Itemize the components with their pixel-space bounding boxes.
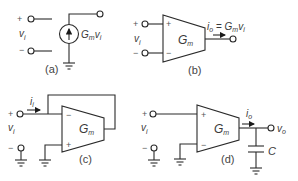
ota-gain-label: Gm: [178, 33, 193, 47]
capacitor-label: C: [268, 145, 276, 157]
minus-sign: −: [133, 48, 138, 58]
output-current-label: io: [246, 108, 252, 120]
ota-minus-input: −: [166, 48, 171, 58]
ground-icon: [15, 160, 27, 166]
ground-icon: [174, 159, 186, 165]
panel-a: + vi − Gmvi (a): [17, 11, 103, 75]
plus-sign: +: [17, 14, 22, 24]
input-voltage-label: vi: [141, 122, 148, 135]
minus-sign: −: [142, 143, 147, 153]
output-voltage-label: vo: [277, 123, 286, 135]
ground-icon: [39, 160, 51, 166]
panel-caption: (b): [188, 64, 201, 76]
input-terminal-plus: [142, 21, 148, 27]
capacitor-icon: [248, 128, 264, 168]
input-terminal-minus: [142, 50, 148, 56]
ota-minus-input: −: [66, 110, 71, 120]
input-voltage-label: vi: [8, 122, 15, 135]
panel-c: + ii vi − − + Gm (c): [8, 95, 115, 166]
ota-plus-input: +: [201, 110, 206, 120]
ota-diagram: + vi − Gmvi (a) + vi − + − Gm: [0, 0, 298, 181]
input-terminal-plus: [28, 16, 34, 22]
output-terminal: [230, 36, 236, 42]
output-terminal: [268, 125, 274, 131]
plus-sign: +: [8, 109, 13, 119]
plus-sign: +: [133, 19, 138, 29]
panel-d: + vi − + − Gm io vo: [141, 105, 286, 174]
input-terminal-minus: [18, 145, 24, 151]
source-gain-label: Gmvi: [81, 29, 102, 41]
minus-sign: −: [8, 143, 13, 153]
input-terminal-minus: [28, 48, 34, 54]
panel-caption: (d): [221, 153, 234, 165]
input-voltage-label: vi: [134, 33, 141, 46]
input-current-label: ii: [30, 96, 34, 108]
input-terminal-plus: [17, 111, 23, 117]
panel-caption: (c): [79, 153, 92, 165]
panel-b: + vi − + − Gm io = Gmvi (b): [133, 15, 245, 76]
input-voltage-label: vi: [19, 28, 26, 41]
ota-plus-input: +: [66, 140, 71, 150]
input-terminal-minus: [151, 145, 157, 151]
output-current-equation: io = Gmvi: [207, 21, 245, 33]
minus-sign: −: [19, 45, 24, 55]
plus-sign: +: [142, 109, 147, 119]
panel-caption: (a): [45, 63, 58, 75]
ground-icon: [250, 168, 262, 174]
ground-icon: [63, 63, 75, 69]
ota-minus-input: −: [201, 140, 206, 150]
input-terminal-plus: [150, 111, 156, 117]
ota-plus-input: +: [166, 19, 171, 29]
ground-icon: [148, 160, 160, 166]
ota-gain-label: Gm: [214, 122, 229, 136]
output-terminal: [97, 11, 103, 17]
ota-gain-label: Gm: [79, 122, 94, 136]
